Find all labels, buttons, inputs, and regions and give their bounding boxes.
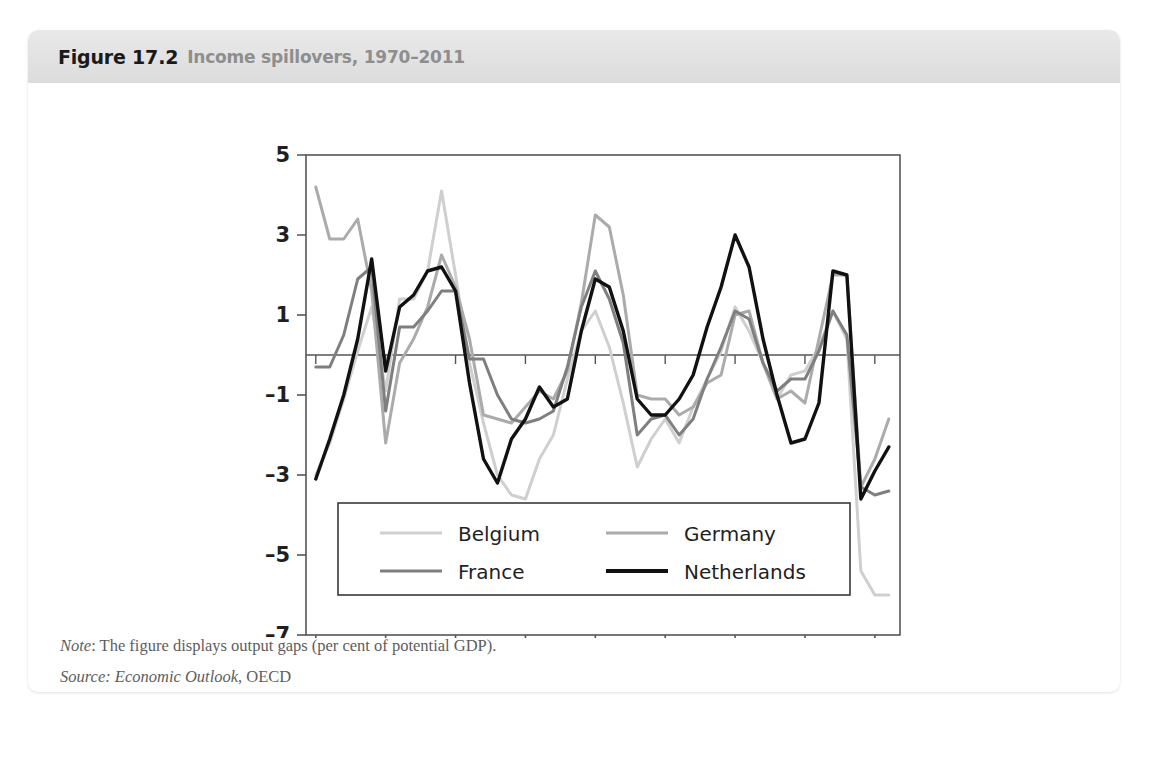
legend-label-france: France: [458, 560, 525, 584]
figure-header-text: Figure 17.2 Income spillovers, 1970–2011: [58, 30, 465, 83]
line-chart: BelgiumGermanyFranceNetherlands 531–1–3–…: [28, 83, 1120, 638]
legend-label-netherlands: Netherlands: [684, 560, 806, 584]
series-line-france: [316, 267, 889, 495]
chart-legend-layer: BelgiumGermanyFranceNetherlands: [338, 503, 850, 595]
chart-plot-region: BelgiumGermanyFranceNetherlands 531–1–3–…: [28, 83, 1120, 638]
y-axis-tick-label: 3: [275, 223, 290, 247]
figure-card: Figure 17.2 Income spillovers, 1970–2011…: [28, 30, 1120, 692]
y-axis-tick-label: 5: [275, 143, 290, 167]
figure-footnotes: Note: The figure displays output gaps (p…: [60, 638, 1080, 692]
y-axis-tick-label: –3: [265, 463, 290, 487]
note-label: Note: [60, 636, 91, 655]
source-italic: : Economic Outlook: [105, 667, 238, 686]
legend-label-germany: Germany: [684, 522, 776, 546]
figure-caption: Income spillovers, 1970–2011: [187, 47, 465, 67]
y-axis-tick-label: 1: [275, 303, 290, 327]
figure-number: Figure 17.2: [58, 46, 178, 68]
y-axis-tick-label: –1: [265, 383, 290, 407]
source-label: Source: [60, 667, 105, 686]
y-axis-tick-label: –5: [265, 543, 290, 567]
figure-note: Note: The figure displays output gaps (p…: [60, 638, 1080, 655]
source-rest: , OECD: [238, 667, 291, 686]
note-text: : The figure displays output gaps (per c…: [91, 636, 496, 655]
figure-source: Source: Economic Outlook, OECD: [60, 669, 1080, 686]
series-line-netherlands: [316, 235, 889, 499]
legend-label-belgium: Belgium: [458, 522, 540, 546]
series-line-germany: [316, 187, 889, 487]
figure-header-band: Figure 17.2 Income spillovers, 1970–2011: [28, 30, 1120, 83]
